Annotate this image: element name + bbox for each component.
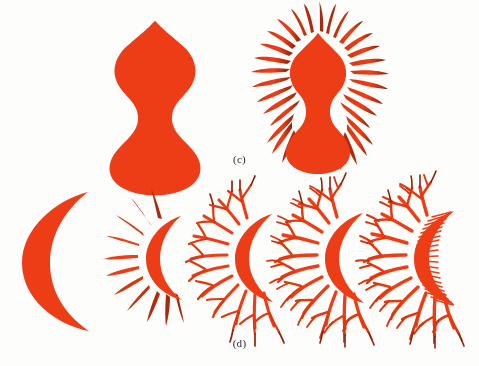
panel-caption-c: (c) [0,153,479,165]
fractal-figure-canvas [0,0,479,366]
crescent-initiator-shape [22,192,89,331]
crescent-iteration-1-shape [104,188,184,326]
panel-caption-d: (d) [0,337,479,349]
gourd-fractal-shape [251,1,389,174]
crescent-spikes-level1 [104,188,184,326]
crescent-iteration-4-shape [356,171,464,348]
crescent-spikes-level4 [356,171,464,348]
figure-page: (c) (d) [0,0,479,366]
gourd-initiator-shape [110,21,201,196]
